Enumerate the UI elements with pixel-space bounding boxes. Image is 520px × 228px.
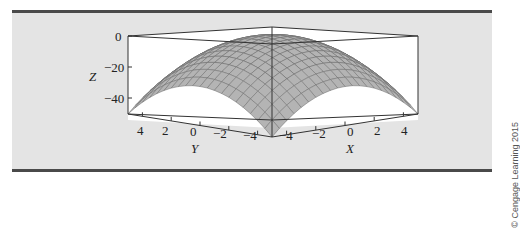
z-tick-2: −40 xyxy=(104,92,124,105)
z-tick-0: 0 xyxy=(115,30,122,43)
x-tick-2: 0 xyxy=(347,125,354,138)
y-tick-1: 2 xyxy=(162,124,169,137)
y-tick-4: −4 xyxy=(243,129,257,142)
y-tick-2: 0 xyxy=(190,125,197,138)
z-axis-title: Z xyxy=(89,70,96,83)
x-tick-4: 4 xyxy=(401,124,408,137)
x-axis-title: X xyxy=(346,142,354,155)
y-tick-0: 4 xyxy=(137,124,144,137)
copyright-credit: © Cengage Learning 2015 xyxy=(510,122,520,228)
x-tick-0: −4 xyxy=(279,129,293,142)
z-tick-1: −20 xyxy=(104,61,124,74)
y-axis-title: Y xyxy=(191,142,198,155)
x-tick-1: −2 xyxy=(312,127,326,140)
y-tick-3: −2 xyxy=(213,127,227,140)
x-tick-3: 2 xyxy=(374,124,381,137)
